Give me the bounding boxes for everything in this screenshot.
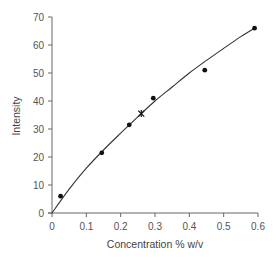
y-tick-label: 30	[33, 124, 45, 135]
calibration-curve	[52, 28, 255, 213]
data-point-dot	[151, 96, 156, 101]
data-point-dot	[99, 150, 104, 155]
y-axis-label: Intensity	[10, 96, 22, 136]
data-points	[58, 26, 257, 199]
calibration-chart: 010203040506070 00.10.20.30.40.50.6 Conc…	[0, 0, 277, 263]
curve-line	[52, 28, 255, 213]
chart-canvas: 010203040506070 00.10.20.30.40.50.6 Conc…	[0, 0, 277, 263]
x-tick-label: 0.3	[148, 221, 162, 232]
data-point-dot	[127, 122, 132, 127]
x-tick-label: 0	[49, 221, 55, 232]
unknown-sample-star-marker	[138, 110, 144, 117]
y-tick-label: 20	[33, 152, 45, 163]
y-tick-label: 0	[38, 208, 44, 219]
x-tick-label: 0.6	[251, 221, 265, 232]
data-point-dot	[252, 26, 257, 31]
y-tick-label: 40	[33, 96, 45, 107]
x-tick-label: 0.5	[217, 221, 231, 232]
x-axis-label: Concentration % w/v	[107, 238, 204, 250]
y-tick-label: 70	[33, 12, 45, 23]
data-point-dot	[202, 68, 207, 73]
y-tick-label: 10	[33, 180, 45, 191]
x-tick-label: 0.1	[79, 221, 93, 232]
x-axis: 00.10.20.30.40.50.6	[48, 213, 265, 232]
y-axis: 010203040506070	[33, 12, 52, 219]
y-tick-label: 50	[33, 68, 45, 79]
data-point-dot	[58, 194, 63, 199]
y-tick-label: 60	[33, 40, 45, 51]
x-tick-label: 0.2	[114, 221, 128, 232]
x-tick-label: 0.4	[182, 221, 196, 232]
